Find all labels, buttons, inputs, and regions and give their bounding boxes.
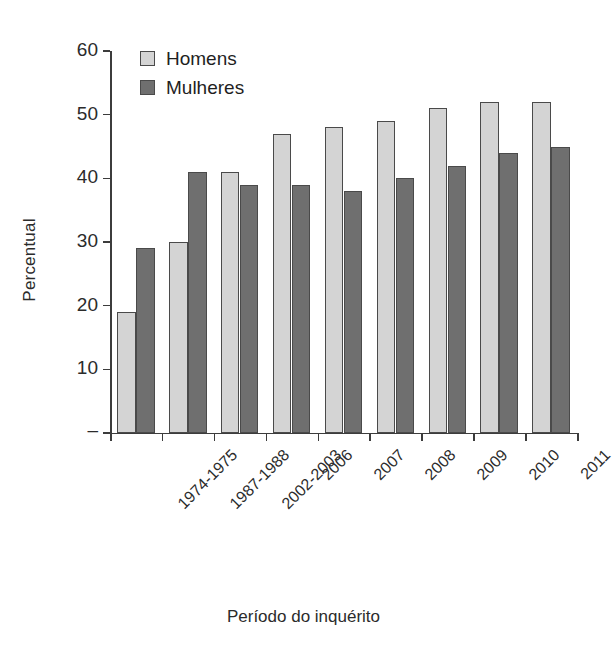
legend-label-mulheres: Mulheres <box>166 77 244 99</box>
x-tick-label-2008: 2008 <box>422 446 460 484</box>
x-tick-mark <box>266 433 268 441</box>
x-tick-mark <box>214 433 216 441</box>
y-axis-title-label: Percentual <box>20 218 40 301</box>
x-tick-mark <box>318 433 320 441</box>
x-tick-label-2009: 2009 <box>474 446 512 484</box>
y-tick-mark <box>103 369 110 371</box>
bar-1974-1975-mulheres <box>136 248 155 433</box>
bar-2002-2003-homens <box>221 172 240 433</box>
y-tick-label: 20 <box>77 294 98 316</box>
y-tick-mark <box>103 432 110 434</box>
plot-area <box>110 51 577 433</box>
y-tick-label: 40 <box>77 166 98 188</box>
y-tick-label: 50 <box>77 103 98 125</box>
bar-2011-homens <box>532 102 551 433</box>
legend-swatch-mulheres-icon <box>140 80 155 95</box>
y-axis-title: Percentual <box>10 0 50 520</box>
x-tick-mark <box>369 433 371 441</box>
bar-2006-mulheres <box>292 185 311 433</box>
y-tick-mark <box>103 305 110 307</box>
x-tick-label-2007: 2007 <box>370 446 408 484</box>
y-tick-mark <box>103 114 110 116</box>
y-tick-label: 10 <box>77 357 98 379</box>
x-tick-mark <box>421 433 423 441</box>
bar-2008-mulheres <box>396 178 415 433</box>
y-tick-mark <box>103 241 110 243</box>
x-tick-mark <box>110 433 112 441</box>
legend-item-mulheres: Mulheres <box>140 73 244 102</box>
y-tick-label: 60 <box>77 39 98 61</box>
x-tick-label-2010: 2010 <box>526 446 564 484</box>
x-tick-mark <box>525 433 527 441</box>
bar-1987-1988-mulheres <box>188 172 207 433</box>
bar-2010-homens <box>480 102 499 433</box>
legend-swatch-homens-icon <box>140 51 155 66</box>
y-tick-label: – <box>87 419 98 441</box>
bar-2010-mulheres <box>499 153 518 433</box>
y-tick-mark <box>103 50 110 52</box>
x-tick-mark <box>473 433 475 441</box>
x-tick-label-2011: 2011 <box>577 446 614 483</box>
y-tick-label: 30 <box>77 230 98 252</box>
legend-label-homens: Homens <box>166 48 237 70</box>
chart-legend: Homens Mulheres <box>140 44 244 102</box>
bar-2006-homens <box>273 134 292 433</box>
bar-2007-mulheres <box>344 191 363 433</box>
x-tick-mark <box>577 433 579 441</box>
bar-1974-1975-homens <box>117 312 136 433</box>
x-tick-mark <box>162 433 164 441</box>
bar-2011-mulheres <box>551 147 570 434</box>
bar-2007-homens <box>325 127 344 433</box>
bar-2009-homens <box>429 108 448 433</box>
x-axis-title: Período do inquérito <box>0 607 607 627</box>
bar-2008-homens <box>377 121 396 433</box>
bar-1987-1988-homens <box>169 242 188 433</box>
bar-2002-2003-mulheres <box>240 185 259 433</box>
bar-2009-mulheres <box>448 166 467 433</box>
legend-item-homens: Homens <box>140 44 244 73</box>
y-tick-mark <box>103 178 110 180</box>
